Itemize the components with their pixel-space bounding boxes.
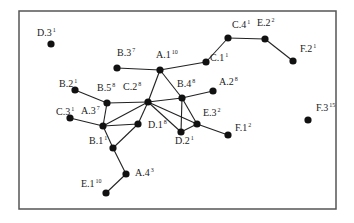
node-label-B.5: B.58 xyxy=(97,82,115,93)
edge-E.3-F.1 xyxy=(197,124,228,135)
node-A.2 xyxy=(209,87,216,94)
edge-B.5-C.2 xyxy=(107,102,148,103)
node-label-F.2: F.21 xyxy=(300,43,316,54)
node-label-C.1: C.11 xyxy=(210,52,228,63)
node-B.4 xyxy=(178,94,185,101)
node-B.3 xyxy=(113,64,120,71)
edge-B.3-A.1 xyxy=(117,68,160,70)
edge-C.2-D.1 xyxy=(138,102,148,124)
node-label-B.3: B.37 xyxy=(117,47,135,58)
edge-B.4-A.2 xyxy=(182,91,213,98)
labels-group: D.31B.37A.110C.11C.41E.22F.21B.21B.58C.2… xyxy=(37,17,335,189)
node-F.3 xyxy=(304,116,311,123)
node-label-C.2: C.28 xyxy=(123,81,141,92)
node-label-B.1: B.11 xyxy=(89,135,107,146)
node-label-D.1: D.18 xyxy=(148,119,167,130)
node-B.5 xyxy=(103,99,110,106)
node-F.2 xyxy=(289,57,296,64)
node-label-E.3: E.32 xyxy=(203,107,221,118)
node-label-F.1: F.12 xyxy=(235,122,251,133)
node-label-D.2: D.21 xyxy=(175,135,194,146)
node-label-A.2: A.28 xyxy=(219,76,238,87)
node-C.1 xyxy=(202,58,209,65)
edge-B.1-D.1 xyxy=(113,124,138,148)
node-C.2 xyxy=(144,98,151,105)
node-label-E.2: E.22 xyxy=(257,17,275,28)
node-label-B.4: B.48 xyxy=(177,78,195,89)
network-diagram: D.31B.37A.110C.11C.41E.22F.21B.21B.58C.2… xyxy=(0,0,354,223)
edge-E.2-F.2 xyxy=(265,39,293,61)
node-A.4 xyxy=(122,170,129,177)
edge-A.4-E.1 xyxy=(106,174,126,193)
node-label-A.4: A.43 xyxy=(135,167,154,178)
node-D.3 xyxy=(47,40,54,47)
node-label-E.1: E.110 xyxy=(81,178,102,189)
edge-C.2-B.4 xyxy=(148,98,182,102)
edge-C.2-A.3 xyxy=(103,102,148,126)
node-B.1 xyxy=(109,144,116,151)
edge-A.1-C.1 xyxy=(160,62,206,70)
edge-C.4-E.2 xyxy=(228,38,265,39)
node-A.3 xyxy=(99,122,106,129)
node-label-A.3: A.37 xyxy=(81,105,100,116)
node-C.4 xyxy=(224,34,231,41)
node-label-C.4: C.41 xyxy=(232,19,250,30)
node-E.3 xyxy=(193,120,200,127)
node-A.1 xyxy=(156,66,163,73)
node-E.1 xyxy=(102,189,109,196)
edge-B.1-A.4 xyxy=(113,148,126,174)
edge-C.3-A.3 xyxy=(70,118,103,126)
edge-A.1-C.2 xyxy=(148,70,160,102)
node-label-F.3: F.315 xyxy=(316,102,335,113)
node-E.2 xyxy=(261,35,268,42)
edge-B.4-D.2 xyxy=(181,98,182,132)
node-label-A.1: A.110 xyxy=(156,49,178,60)
node-D.1 xyxy=(134,120,141,127)
edge-A.3-D.1 xyxy=(103,124,138,126)
node-F.1 xyxy=(224,131,231,138)
node-label-D.3: D.31 xyxy=(37,27,56,38)
edges-group xyxy=(70,38,293,193)
